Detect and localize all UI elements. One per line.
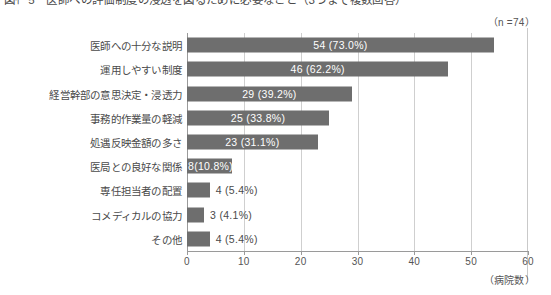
bar[interactable] [187, 231, 210, 246]
bar-value-label: 4 (5.4%) [216, 233, 258, 245]
x-axis-tick [301, 251, 302, 255]
x-axis-tick-label: 30 [352, 256, 364, 267]
x-axis-tick-label: 60 [522, 256, 534, 267]
category-label: 運用しやすい制度 [100, 62, 182, 77]
x-axis-tick [414, 251, 415, 255]
plot-area: 医師への十分な説明54 (73.0%)運用しやすい制度46 (62.2%)経営幹… [187, 33, 528, 251]
x-axis-tick-label: 0 [184, 256, 190, 267]
category-label: 専任担当者の配置 [100, 183, 182, 198]
bar-value-label: 23 (31.1%) [225, 136, 279, 148]
x-axis-unit-caption: （病院数） [484, 272, 536, 287]
bar[interactable] [187, 183, 210, 198]
chart-row: 処遇反映金額の多さ23 (31.1%) [187, 130, 528, 154]
chart-row: その他4 (5.4%) [187, 227, 528, 251]
bar-value-label: 29 (39.2%) [242, 88, 296, 100]
category-label: 事務的作業量の軽減 [90, 110, 182, 125]
bar-value-label: 46 (62.2%) [291, 63, 345, 75]
category-label: 経営幹部の意思決定・浸透力 [49, 86, 182, 101]
x-axis-tick-label: 40 [408, 256, 420, 267]
bar-value-label: 3 (4.1%) [210, 209, 252, 221]
x-axis-tick-label: 50 [465, 256, 477, 267]
figure-title: 図ｲｰ5 医師への評価制度の浸透を図るために必要なこと（3つまで複数回答） [4, 0, 407, 7]
x-axis-tick [471, 251, 472, 255]
sample-size-annotation: （n =74） [488, 14, 535, 29]
bar-value-label: 25 (33.8%) [231, 112, 285, 124]
x-axis-tick [358, 251, 359, 255]
category-label: 医局との良好な関係 [90, 159, 182, 174]
category-label: 医師への十分な説明 [90, 38, 182, 53]
bar-value-label: 54 (73.0%) [313, 39, 367, 51]
chart-row: 医師への十分な説明54 (73.0%) [187, 33, 528, 57]
chart-row: コメディカルの協力3 (4.1%) [187, 203, 528, 227]
x-axis-tick [187, 251, 188, 255]
category-label: その他 [151, 231, 182, 246]
chart-row: 経営幹部の意思決定・浸透力29 (39.2%) [187, 81, 528, 105]
chart-row: 専任担当者の配置4 (5.4%) [187, 178, 528, 202]
category-label: コメディカルの協力 [91, 207, 182, 222]
chart-row: 医局との良好な関係8(10.8%) [187, 154, 528, 178]
x-axis-tick [244, 251, 245, 255]
bar-value-label: 4 (5.4%) [216, 184, 258, 196]
x-axis-tick-label: 10 [238, 256, 250, 267]
chart-row: 運用しやすい制度46 (62.2%) [187, 57, 528, 81]
bar-value-label: 8(10.8%) [188, 160, 233, 172]
category-label: 処遇反映金額の多さ [90, 134, 182, 149]
x-axis-tick [528, 251, 529, 255]
chart-row: 事務的作業量の軽減25 (33.8%) [187, 106, 528, 130]
bar[interactable] [187, 207, 204, 222]
x-axis-tick-label: 20 [295, 256, 307, 267]
